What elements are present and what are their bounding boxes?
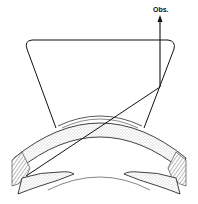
arrow-up-icon: [158, 15, 163, 22]
gonioscopy-diagram: Obs.: [0, 0, 198, 204]
observer-label: Obs.: [153, 6, 169, 13]
lens-surface-arc: [48, 177, 150, 190]
cornea: [14, 123, 186, 170]
goniolens: [26, 40, 174, 128]
